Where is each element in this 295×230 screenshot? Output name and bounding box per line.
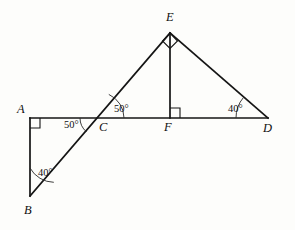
angle-labels-group: 40° 50° 50° 40° [38,103,243,178]
vertex-label-C: C [99,120,108,134]
right-angle-at-A-icon [30,118,40,128]
right-angle-at-F-icon [170,108,180,118]
angle-BCA-label: 50° [64,119,79,130]
geometry-figure: A B C D E F 40° 50° 50° 40° [0,0,295,230]
vertex-label-E: E [165,10,174,24]
vertex-label-A: A [16,102,25,116]
angle-BCA-arc [80,118,87,132]
segments-group [30,33,268,196]
angle-at-B-label: 40° [38,167,53,178]
vertex-label-B: B [24,203,32,217]
angle-arcs-group [30,94,244,182]
geometry-canvas: A B C D E F 40° 50° 50° 40° [0,0,295,230]
vertex-label-F: F [163,120,172,134]
angle-at-D-label: 40° [228,103,243,114]
segment-ED [170,33,268,118]
angle-ECF-label: 50° [114,103,129,114]
vertex-label-D: D [262,121,272,135]
